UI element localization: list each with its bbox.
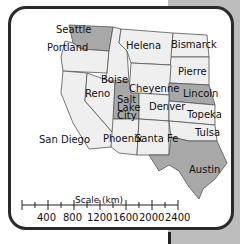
city-san-diego: San Diego: [39, 135, 90, 145]
scale-title: Scale (km): [75, 195, 123, 205]
city-austin: Austin: [189, 165, 220, 175]
city-bismarck: Bismarck: [171, 40, 217, 50]
scale-tick-1600: 1600: [113, 212, 138, 223]
city-denver: Denver: [149, 102, 185, 112]
city-cheyenne: Cheyenne: [129, 84, 179, 94]
city-helena: Helena: [126, 41, 161, 51]
panel-divider: [168, 232, 171, 244]
scale-tick-400: 400: [37, 212, 56, 223]
city-seattle: Seattle: [56, 25, 91, 35]
city-tulsa: Tulsa: [195, 128, 220, 138]
city-boise: Boise: [101, 75, 128, 85]
city-portland: Portland: [47, 43, 88, 53]
scale-tick-2400: 2400: [165, 212, 190, 223]
city-santa-fe: Santa Fe: [135, 134, 178, 144]
scale-tick-1200: 1200: [87, 212, 112, 223]
city-salt-lake-3: City: [117, 111, 137, 121]
scale-tick-800: 800: [63, 212, 82, 223]
city-topeka: Topeka: [187, 110, 222, 120]
city-lincoln: Lincoln: [183, 89, 218, 99]
map-card: Seattle Portland Helena Bismarck Boise P…: [8, 6, 234, 230]
scale-tick-2000: 2000: [139, 212, 164, 223]
city-reno: Reno: [85, 89, 110, 99]
city-pierre: Pierre: [178, 67, 207, 77]
